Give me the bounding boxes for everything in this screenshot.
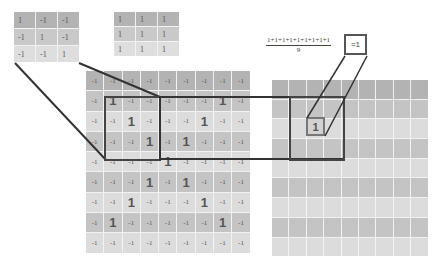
output-cell: [359, 119, 375, 138]
input-cell: 1: [104, 91, 121, 110]
output-cell: [376, 159, 392, 178]
input-cell: -1: [104, 152, 121, 171]
input-cell: -1: [159, 172, 176, 191]
output-cell: [307, 100, 323, 119]
input-cell: -1: [86, 233, 103, 252]
kernel-all-ones: 111111111: [114, 12, 179, 56]
input-cell: -1: [86, 132, 103, 151]
output-cell: [359, 218, 375, 237]
input-cell: -1: [214, 233, 231, 252]
input-cell: -1: [214, 152, 231, 171]
input-cell: -1: [177, 71, 194, 90]
output-cell: [324, 100, 340, 119]
output-cell: [394, 218, 410, 237]
output-cell: [411, 238, 427, 257]
input-cell: -1: [196, 213, 213, 232]
kernel-cell: 1: [114, 12, 135, 26]
output-cell: [307, 139, 323, 158]
input-cell: -1: [104, 193, 121, 212]
output-cell: [411, 159, 427, 178]
input-cell: -1: [196, 71, 213, 90]
input-cell: -1: [232, 152, 249, 171]
output-cell: [307, 198, 323, 217]
output-cell: [289, 100, 305, 119]
output-cell: [376, 218, 392, 237]
kernel-cell: 1: [136, 12, 157, 26]
input-cell: -1: [232, 71, 249, 90]
output-cell: [411, 198, 427, 217]
kernel-cell: 1: [158, 12, 179, 26]
input-cell: -1: [104, 112, 121, 131]
output-cell: [272, 238, 288, 257]
output-cell: [342, 139, 358, 158]
input-cell: -1: [196, 91, 213, 110]
output-cell: [342, 100, 358, 119]
output-cell: [394, 238, 410, 257]
output-cell: [342, 178, 358, 197]
input-cell: 1: [196, 193, 213, 212]
input-cell: -1: [123, 71, 140, 90]
input-cell: -1: [104, 172, 121, 191]
input-cell: -1: [159, 71, 176, 90]
input-cell: -1: [159, 213, 176, 232]
input-cell: -1: [141, 152, 158, 171]
output-cell: [272, 119, 288, 138]
formula-numerator: 1+1+1+1+1+1+1+1+1: [266, 36, 331, 46]
input-cell: -1: [232, 213, 249, 232]
input-cell: -1: [123, 172, 140, 191]
kernel-cell: -1: [36, 12, 57, 28]
kernel-cell: 1: [58, 46, 79, 62]
output-cell: [376, 178, 392, 197]
input-cell: 1: [177, 172, 194, 191]
input-cell: -1: [123, 132, 140, 151]
output-cell: [289, 238, 305, 257]
input-cell: -1: [196, 132, 213, 151]
output-cell: [394, 159, 410, 178]
output-cell: [359, 238, 375, 257]
output-cell: [394, 178, 410, 197]
formula-denominator: 9: [266, 46, 331, 55]
output-cell: [359, 159, 375, 178]
output-cell: [342, 119, 358, 138]
kernel-x-pattern: 1-1-1-11-1-1-11: [14, 12, 79, 62]
output-cell: [289, 80, 305, 99]
output-cell: [272, 80, 288, 99]
output-cell: [394, 100, 410, 119]
output-cell: [272, 178, 288, 197]
kernel-cell: 1: [36, 29, 57, 45]
output-cell: [359, 139, 375, 158]
input-cell: -1: [177, 193, 194, 212]
kernel-cell: 1: [158, 42, 179, 56]
input-cell: -1: [232, 91, 249, 110]
input-cell: -1: [86, 71, 103, 90]
input-cell: -1: [159, 233, 176, 252]
input-cell: -1: [104, 233, 121, 252]
input-cell: -1: [214, 193, 231, 212]
input-cell: -1: [86, 213, 103, 232]
input-cell: -1: [123, 213, 140, 232]
output-cell: [376, 100, 392, 119]
input-cell: 1: [141, 132, 158, 151]
input-cell: -1: [232, 172, 249, 191]
input-cell: -1: [159, 112, 176, 131]
kernel-cell: 1: [136, 27, 157, 41]
output-cell: [324, 139, 340, 158]
kernel-cell: 1: [14, 12, 35, 28]
output-cell: [324, 159, 340, 178]
output-cell: [359, 100, 375, 119]
input-cell: -1: [232, 193, 249, 212]
output-cell: [376, 238, 392, 257]
input-cell: -1: [177, 152, 194, 171]
output-cell: [324, 218, 340, 237]
output-cell: [272, 139, 288, 158]
kernel-cell: 1: [114, 42, 135, 56]
input-cell: -1: [123, 233, 140, 252]
input-cell: 1: [214, 213, 231, 232]
input-cell: -1: [232, 233, 249, 252]
input-cell: -1: [177, 112, 194, 131]
output-cell: [359, 198, 375, 217]
average-formula: 1+1+1+1+1+1+1+1+1 9: [266, 36, 331, 55]
output-cell: [359, 80, 375, 99]
output-cell: [272, 159, 288, 178]
input-cell: -1: [214, 132, 231, 151]
